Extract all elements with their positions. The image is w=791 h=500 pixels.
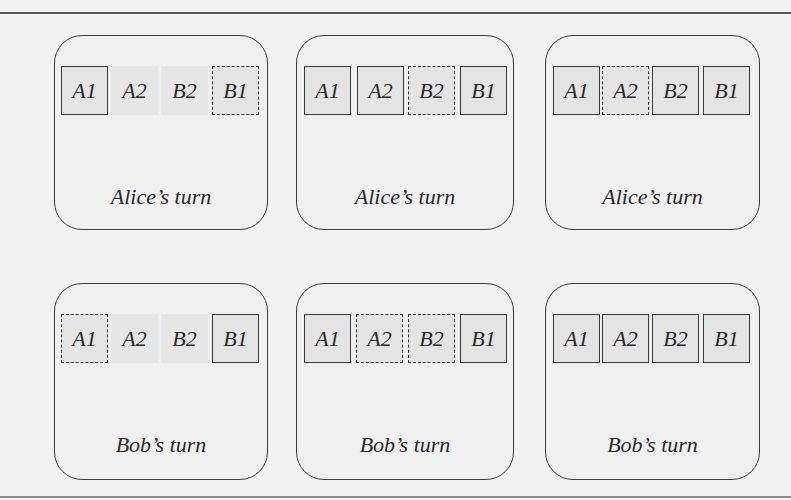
cell-b1: B1: [460, 66, 507, 115]
panel-alice-turn-1: A1 A2 B2 B1 Alice’s turn: [54, 35, 268, 230]
cell-row: A1 A2 B2 B1: [546, 314, 759, 363]
cell-b1: B1: [703, 314, 750, 363]
cell-b2: B2: [652, 314, 699, 363]
cell-a2: A2: [602, 314, 649, 363]
turn-label: Alice’s turn: [55, 184, 267, 210]
panel-bob-turn-3: A1 A2 B2 B1 Bob’s turn: [545, 283, 760, 480]
turn-label: Alice’s turn: [297, 184, 513, 210]
cell-a2: A2: [111, 66, 158, 115]
turn-label: Bob’s turn: [297, 432, 513, 458]
panel-bob-turn-2: A1 A2 B2 B1 Bob’s turn: [296, 283, 514, 480]
cell-a1: A1: [304, 314, 351, 363]
turn-label: Bob’s turn: [546, 432, 759, 458]
cell-a1: A1: [553, 66, 600, 115]
top-rule: [0, 12, 791, 14]
cell-a2: A2: [111, 314, 158, 363]
cell-row: A1 A2 B2 B1: [297, 66, 513, 115]
cell-b2: B2: [408, 314, 455, 363]
turn-label: Alice’s turn: [546, 184, 759, 210]
cell-b2: B2: [161, 314, 208, 363]
cell-a1: A1: [553, 314, 600, 363]
bottom-rule: [0, 496, 791, 498]
cell-a1: A1: [61, 314, 108, 363]
cell-row: A1 A2 B2 B1: [297, 314, 513, 363]
cell-a2: A2: [356, 314, 403, 363]
cell-b1: B1: [703, 66, 750, 115]
cell-a1: A1: [61, 66, 108, 115]
cell-b1: B1: [212, 66, 259, 115]
cell-b2: B2: [161, 66, 208, 115]
cell-row: A1 A2 B2 B1: [546, 66, 759, 115]
cell-b1: B1: [212, 314, 259, 363]
cell-row: A1 A2 B2 B1: [55, 66, 267, 115]
cell-b2: B2: [652, 66, 699, 115]
cell-a2: A2: [357, 66, 404, 115]
panel-alice-turn-3: A1 A2 B2 B1 Alice’s turn: [545, 35, 760, 230]
panel-alice-turn-2: A1 A2 B2 B1 Alice’s turn: [296, 35, 514, 230]
turn-label: Bob’s turn: [55, 432, 267, 458]
cell-b1: B1: [460, 314, 507, 363]
cell-a1: A1: [304, 66, 351, 115]
cell-b2: B2: [408, 66, 455, 115]
cell-row: A1 A2 B2 B1: [55, 314, 267, 363]
panel-bob-turn-1: A1 A2 B2 B1 Bob’s turn: [54, 283, 268, 480]
cell-a2: A2: [602, 66, 649, 115]
